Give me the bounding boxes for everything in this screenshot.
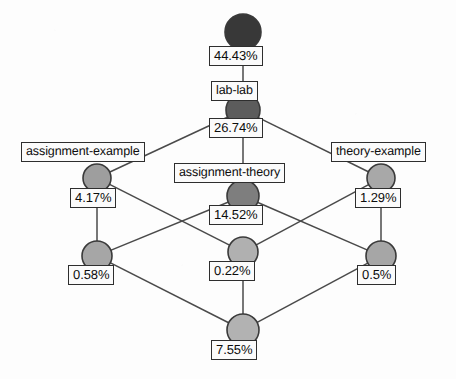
support-label: 0.58% bbox=[68, 265, 114, 285]
support-label: 0.22% bbox=[209, 261, 255, 281]
lattice-edge bbox=[255, 184, 369, 245]
lattice-edge bbox=[257, 202, 368, 250]
attribute-label: assignment-theory bbox=[174, 163, 285, 183]
support-label: 14.52% bbox=[209, 205, 263, 225]
attribute-label: assignment-example bbox=[21, 142, 145, 162]
support-label: 26.74% bbox=[209, 118, 263, 138]
support-label: 1.29% bbox=[355, 188, 401, 208]
attribute-label: theory-example bbox=[331, 142, 426, 162]
lattice-node[interactable] bbox=[225, 14, 261, 50]
support-label: 4.17% bbox=[70, 188, 116, 208]
support-label: 7.55% bbox=[211, 340, 257, 360]
lattice-edge bbox=[256, 263, 368, 323]
support-label: 44.43% bbox=[209, 46, 263, 66]
support-label: 0.5% bbox=[357, 265, 396, 285]
attribute-label: lab-lab bbox=[211, 81, 258, 101]
lattice-diagram-canvas: 44.43%26.74%4.17%14.52%1.29%0.58%0.22%0.… bbox=[0, 0, 456, 379]
